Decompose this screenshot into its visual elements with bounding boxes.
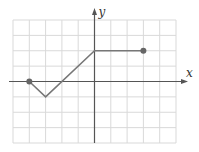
y-axis-label: y	[98, 5, 106, 19]
endpoint-dot	[26, 79, 32, 85]
endpoint-dot	[140, 48, 146, 54]
x-axis-arrow-icon	[181, 79, 188, 84]
axes: x y	[9, 5, 193, 143]
function-graph: x y	[0, 0, 199, 152]
function-series	[26, 48, 146, 97]
y-axis-arrow-icon	[92, 8, 97, 15]
function-line	[29, 51, 143, 97]
x-axis-label: x	[186, 66, 193, 80]
